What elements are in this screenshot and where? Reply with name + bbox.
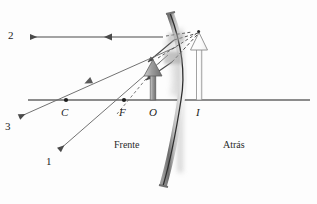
optics-ray-diagram: 2 3 1 C F O I Frente Atrás (0, 0, 317, 204)
point-label-O: O (149, 107, 157, 118)
image-arrow (191, 33, 208, 101)
front-side-label: Frente (114, 140, 140, 150)
ray-1-label: 1 (46, 156, 52, 167)
point-C-dot (64, 98, 68, 102)
ray-3-label: 3 (5, 121, 11, 132)
back-side-label: Atrás (223, 140, 245, 150)
image-tip-point (197, 30, 200, 33)
ray-2-incident (30, 34, 163, 41)
ray-2-label: 2 (8, 30, 14, 41)
point-label-C: C (61, 107, 68, 118)
point-label-F: F (119, 107, 126, 118)
point-label-I: I (196, 107, 200, 118)
diagram-canvas (0, 0, 317, 204)
point-F-dot (122, 98, 126, 102)
